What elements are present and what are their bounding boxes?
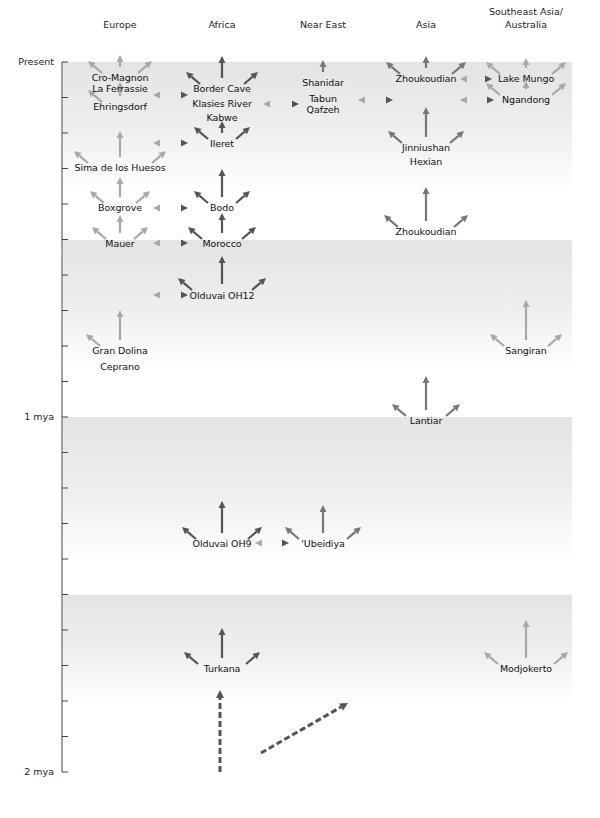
- site-label: Shanidar: [302, 77, 344, 88]
- site-label: Zhoukoudian: [396, 226, 457, 237]
- up-right-arrow: [236, 191, 250, 203]
- site-label: Ceprano: [100, 361, 139, 372]
- site-label: Klasies River: [192, 98, 251, 109]
- site-label: 'Ubeidiya: [301, 538, 344, 549]
- up-right-arrow: [446, 404, 460, 416]
- site-label: Modjokerto: [500, 663, 552, 674]
- time-band: [63, 595, 572, 700]
- site-label: Qafzeh: [307, 104, 340, 115]
- axis-label: 1 mya: [4, 411, 54, 422]
- site-label: Olduvai OH9: [193, 538, 252, 549]
- up-left-arrow: [194, 191, 208, 203]
- up-right-arrow: [242, 227, 256, 239]
- dashed-arrow: [261, 703, 348, 753]
- double-arrow: [153, 205, 188, 212]
- site-label: Bodo: [210, 202, 234, 213]
- region-header: Near East: [300, 18, 346, 31]
- site-label: Zhoukoudian: [396, 73, 457, 84]
- region-header: Africa: [208, 18, 235, 31]
- dashed-origin-arrows: [216, 690, 348, 772]
- site-label: Olduvai OH12: [190, 290, 255, 301]
- up-arrow: [423, 376, 430, 410]
- site-label: Kabwe: [206, 112, 237, 123]
- hominin-dispersal-diagram: EuropeAfricaNear EastAsiaSoutheast Asia/…: [0, 0, 600, 818]
- axis-label: Present: [4, 56, 54, 67]
- site-label: Cro-Magnon: [92, 72, 149, 83]
- region-header: Asia: [416, 18, 436, 31]
- up-arrow: [423, 187, 430, 221]
- site-label: Sima de los Huesos: [74, 162, 165, 173]
- axis-label: 2 mya: [4, 766, 54, 777]
- site-label: Morocco: [202, 238, 241, 249]
- site-label: Ileret: [210, 138, 234, 149]
- region-header: Southeast Asia/Australia: [489, 5, 563, 31]
- up-left-arrow: [92, 227, 106, 239]
- site-label: La Ferrassie: [92, 83, 148, 94]
- up-right-arrow: [134, 227, 148, 239]
- site-label: Ngandong: [502, 94, 550, 105]
- site-label: Ehringsdorf: [93, 101, 147, 112]
- site-label: Turkana: [204, 663, 241, 674]
- up-arrow: [219, 213, 226, 233]
- up-left-arrow: [392, 404, 406, 416]
- site-label: Mauer: [105, 238, 134, 249]
- up-arrow: [117, 215, 124, 233]
- site-label: Hexian: [410, 156, 442, 167]
- site-label: Tabun: [309, 93, 337, 104]
- site-label: Border Cave: [193, 83, 251, 94]
- dashed-arrow: [216, 690, 224, 772]
- site-label: Jinniushan: [402, 142, 450, 153]
- diagram-canvas: [0, 0, 600, 818]
- region-header-line: Australia: [489, 18, 563, 31]
- region-header: Europe: [103, 18, 136, 31]
- site-label: Boxgrove: [98, 202, 142, 213]
- region-header-line: Southeast Asia/: [489, 5, 563, 18]
- site-label: Sangiran: [505, 345, 547, 356]
- site-label: Gran Dolina: [92, 345, 147, 356]
- up-left-arrow: [188, 227, 202, 239]
- time-axis: [62, 62, 68, 772]
- site-label: Lake Mungo: [498, 73, 554, 84]
- site-label: Lantiar: [410, 415, 443, 426]
- time-bands: [63, 62, 572, 700]
